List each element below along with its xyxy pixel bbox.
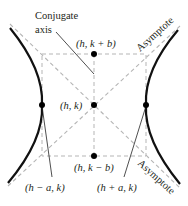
conjugate-axis-label-line2: axis (35, 24, 52, 35)
center-label: (h, k) (60, 100, 83, 112)
left-vertex-label: (h − a, k) (25, 182, 65, 194)
right-vertex-label: (h + a, k) (97, 182, 137, 194)
hyperbola-diagram: Conjugate axis (h, k + b) (h, k) (h, k −… (0, 0, 188, 206)
bottom-point-label: (h, k − b) (74, 162, 114, 174)
top-point-label: (h, k + b) (76, 38, 116, 50)
bottom-point-dot (91, 153, 97, 159)
asymptote-upper-label: Asymptote (134, 14, 176, 53)
conjugate-axis-label-line1: Conjugate (35, 10, 78, 21)
asymptote-lower-label: Asymptote (136, 157, 178, 196)
center-dot (91, 102, 97, 108)
left-vertex-leader (42, 106, 52, 177)
left-vertex-dot (39, 102, 45, 108)
right-vertex-dot (143, 102, 149, 108)
hyperbola-left-branch (8, 28, 42, 183)
top-point-dot (91, 51, 97, 57)
hyperbola-right-branch (146, 30, 180, 184)
